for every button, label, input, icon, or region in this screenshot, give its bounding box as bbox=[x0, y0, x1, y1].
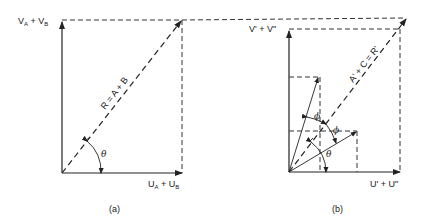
theta-label-a: θ bbox=[101, 149, 107, 159]
phi-label-1: ϕ bbox=[314, 111, 320, 121]
y-axis-label-a: VA + VB bbox=[18, 16, 48, 27]
y-axis-label-b: V' + V" bbox=[249, 24, 276, 34]
theta-arc-a bbox=[87, 141, 101, 173]
caption-b: (b) bbox=[332, 204, 343, 214]
resultant-vector-a bbox=[62, 21, 181, 173]
figure-a: VA + VB UA + UB R = A + B θ (a) bbox=[18, 16, 405, 214]
vector-diagram: VA + VB UA + UB R = A + B θ (a) bbox=[0, 0, 425, 222]
tick-b bbox=[309, 138, 313, 142]
resultant-vector-b bbox=[289, 19, 406, 172]
theta-label-b: θ bbox=[326, 149, 332, 159]
dashed-connector bbox=[182, 18, 405, 20]
x-axis-label-a: UA + UB bbox=[148, 179, 179, 190]
phi-label-2: ϕ bbox=[333, 125, 339, 135]
caption-a: (a) bbox=[109, 204, 120, 214]
vector-a-prime bbox=[289, 78, 318, 172]
x-axis-label-b: U' + U" bbox=[370, 179, 398, 189]
resultant-label-b: A' + C = R' bbox=[347, 44, 381, 84]
figure-b: V' + V" U' + U" A' + C = R' ϕ ϕ θ (b) bbox=[249, 19, 406, 214]
